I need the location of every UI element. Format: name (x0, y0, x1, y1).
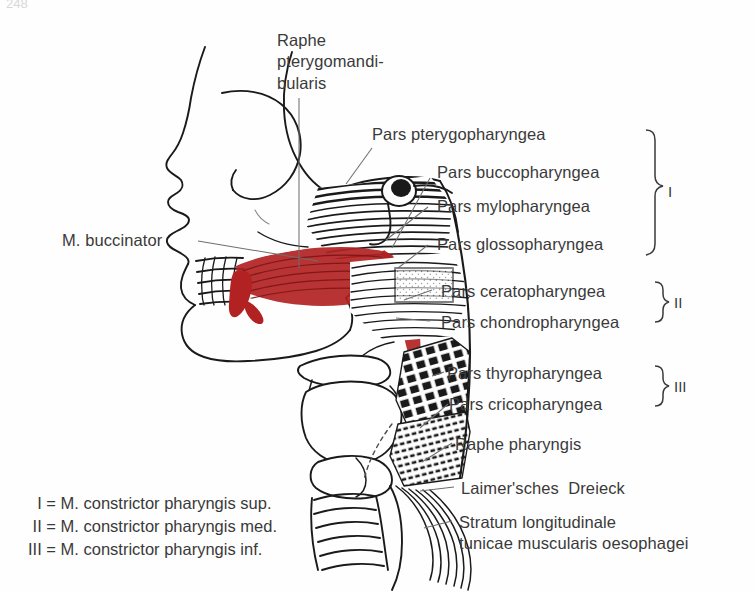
label-stratum-longitudinale: Stratum longitudinale tunicae muscularis… (459, 512, 688, 555)
trachea (311, 494, 388, 570)
group-marker-I: I (668, 183, 672, 200)
label-m-buccinator: M. buccinator (62, 230, 162, 251)
label-pars-pterygopharyngea: Pars pterygopharyngea (372, 124, 546, 145)
label-raphe-pharyngis: Raphe pharyngis (455, 434, 581, 455)
brace-III (655, 366, 669, 406)
cricoid-cartilage (311, 456, 392, 499)
label-pars-cricopharyngea: Pars cricopharyngea (449, 394, 602, 415)
group-braces (646, 130, 669, 406)
legend-row-sup: I = M. constrictor pharyngis sup. (28, 492, 277, 515)
brace-II (655, 282, 669, 322)
leader-laimersches-dreieck (420, 487, 454, 491)
label-raphe-pterygomandibularis: Raphe pterygomandi- bularis (277, 30, 384, 94)
label-pars-chondropharyngea: Pars chondropharyngea (441, 312, 619, 333)
label-pars-glossopharyngea: Pars glossopharyngea (437, 234, 603, 255)
legend: I = M. constrictor pharyngis sup. II = M… (28, 492, 277, 560)
label-pars-thyropharyngea: Pars thyropharyngea (447, 363, 602, 384)
leader-pars-pterygopharyngea (346, 148, 372, 184)
brace-I (646, 130, 663, 255)
group-marker-III: III (674, 378, 687, 395)
anatomical-plate: 248 (0, 0, 755, 593)
label-laimersches-dreieck: Laimer'sches Dreieck (461, 478, 625, 499)
group-marker-II: II (674, 294, 682, 311)
legend-row-med: II = M. constrictor pharyngis med. (28, 515, 277, 538)
label-pars-buccopharyngea: Pars buccopharyngea (437, 162, 599, 183)
legend-row-inf: III = M. constrictor pharyngis inf. (28, 538, 277, 561)
thyroid-cartilage (302, 381, 402, 464)
label-pars-mylopharyngea: Pars mylopharyngea (437, 196, 590, 217)
label-pars-ceratopharyngea: Pars ceratopharyngea (441, 281, 605, 302)
